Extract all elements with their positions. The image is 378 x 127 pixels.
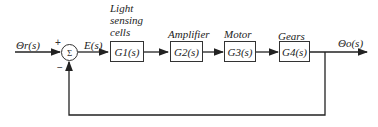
output-signal-label: Θo(s): [338, 38, 363, 49]
block-g2: G2(s): [170, 41, 203, 62]
block-g4-label: G4(s): [282, 46, 307, 58]
input-sign: +: [55, 37, 61, 48]
block-caption-g1-line3: cells: [110, 27, 130, 38]
sigma-symbol: Σ: [67, 48, 72, 58]
block-caption-g3: Motor: [224, 29, 252, 40]
error-signal-label: E(s): [84, 40, 102, 51]
input-signal-label: Θr(s): [16, 40, 40, 51]
block-caption-g1-line1: Light: [110, 3, 133, 14]
block-g3-label: G3(s): [227, 46, 252, 58]
block-caption-g2: Amplifier: [168, 29, 210, 40]
feedback-sign: −: [57, 62, 63, 73]
summing-junction: Σ: [61, 44, 78, 61]
block-g2-label: G2(s): [174, 46, 199, 58]
block-g4: G4(s): [279, 41, 310, 62]
block-g1-label: G1(s): [114, 46, 139, 58]
block-g1: G1(s): [110, 41, 144, 62]
block-caption-g1-line2: sensing: [110, 15, 143, 26]
block-g3: G3(s): [224, 41, 256, 62]
